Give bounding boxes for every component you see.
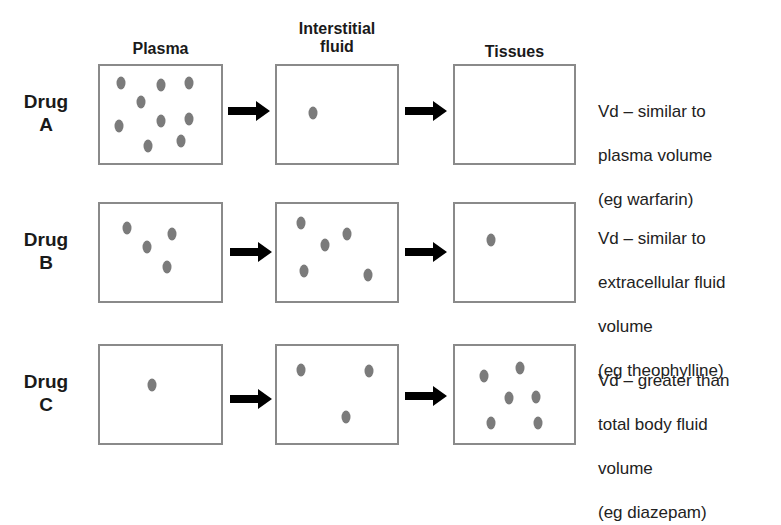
drug-particle [365, 365, 374, 378]
row-label-drug-a-line1: Drug [16, 90, 76, 113]
drug-particle [487, 417, 496, 430]
tissues-box-drug-c [453, 344, 576, 445]
column-header-plasma: Plasma [98, 40, 223, 58]
drug-particle [309, 107, 318, 120]
tissues-box-drug-b [453, 202, 576, 303]
arrow-right-icon [405, 101, 447, 121]
drug-particle [297, 364, 306, 377]
drug-particle [487, 234, 496, 247]
description-drug-c: Vd – greater than total body fluid volum… [598, 348, 729, 525]
drug-particle [157, 115, 166, 128]
drug-particle [297, 217, 306, 230]
drug-particle [137, 96, 146, 109]
drug-particle [117, 77, 126, 90]
drug-particle [516, 362, 525, 375]
drug-particle [148, 379, 157, 392]
row-label-drug-a: Drug A [16, 90, 76, 136]
drug-particle [300, 265, 309, 278]
description-line: Vd – similar to [598, 101, 712, 123]
column-header-interstitial-line2: fluid [262, 38, 412, 56]
column-header-tissues: Tissues [453, 43, 576, 61]
drug-particle [480, 370, 489, 383]
drug-particle [144, 140, 153, 153]
drug-particle [364, 269, 373, 282]
interstitial-box-drug-c [275, 344, 399, 445]
arrow-right-icon [228, 101, 270, 121]
row-label-drug-c-line1: Drug [16, 370, 76, 393]
drug-particle [342, 411, 351, 424]
description-line: (eg diazepam) [598, 502, 729, 524]
drug-particle [185, 77, 194, 90]
column-header-interstitial-line1: Interstitial [262, 20, 412, 38]
column-header-interstitial: Interstitial fluid [262, 20, 412, 56]
row-label-drug-c-line2: C [16, 393, 76, 416]
arrow-right-icon [230, 389, 272, 409]
row-label-drug-c: Drug C [16, 370, 76, 416]
drug-particle [505, 392, 514, 405]
drug-particle [343, 228, 352, 241]
drug-particle [163, 261, 172, 274]
plasma-box-drug-a [98, 64, 223, 165]
drug-particle [185, 113, 194, 126]
arrow-right-icon [405, 386, 447, 406]
drug-particle [123, 222, 132, 235]
row-label-drug-b-line1: Drug [16, 228, 76, 251]
drug-particle [115, 120, 124, 133]
interstitial-box-drug-b [275, 202, 399, 303]
description-line: plasma volume [598, 145, 712, 167]
drug-particle [168, 228, 177, 241]
description-line: volume [598, 316, 726, 338]
row-label-drug-a-line2: A [16, 113, 76, 136]
tissues-box-drug-a [453, 64, 576, 165]
drug-particle [157, 79, 166, 92]
arrow-right-icon [230, 242, 272, 262]
description-line: total body fluid [598, 414, 729, 436]
plasma-box-drug-b [98, 202, 223, 303]
drug-particle [532, 391, 541, 404]
drug-particle [321, 239, 330, 252]
drug-particle [534, 417, 543, 430]
description-line: Vd – greater than [598, 370, 729, 392]
plasma-box-drug-c [98, 344, 223, 445]
arrow-right-icon [405, 242, 447, 262]
description-line: volume [598, 458, 729, 480]
drug-particle [177, 135, 186, 148]
description-line: extracellular fluid [598, 272, 726, 294]
interstitial-box-drug-a [275, 64, 399, 165]
description-line: Vd – similar to [598, 228, 726, 250]
row-label-drug-b-line2: B [16, 251, 76, 274]
drug-particle [143, 241, 152, 254]
row-label-drug-b: Drug B [16, 228, 76, 274]
